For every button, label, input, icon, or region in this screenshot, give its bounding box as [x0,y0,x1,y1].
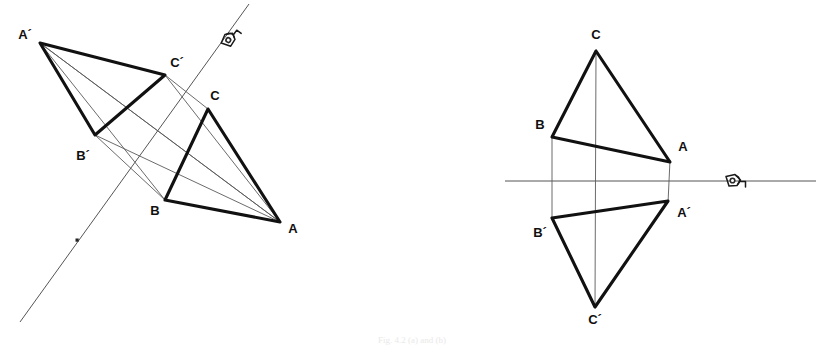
vertex-label-b-prime: B´ [533,225,547,240]
connector-c-cprime [595,51,596,307]
left-connector-lines [40,43,280,222]
vertex-label-c: C [210,88,220,103]
vertex-label-a: A [288,221,298,236]
right-connector-lines [552,51,670,307]
triangle-abc-reflected [552,201,668,307]
connector-aprime-to-b-ray [40,43,165,200]
connector-b-bprime [95,135,165,200]
left-reflection-axis [20,4,249,322]
right-view: A B C A´ B´ C´ [505,27,816,327]
connector-cprime-to-a-ray [165,75,280,222]
geometry-figure-canvas: A B C A´ B´ C´ A B C A´ B´ C´ [0,0,825,346]
triangle-abc-original [552,51,670,162]
vertex-label-b-prime: B´ [76,148,90,163]
left-axis-point-marker [76,239,79,242]
connector-c-cprime [165,75,208,109]
figure-caption: Fig. 4.2 (a) and (b) [378,335,446,345]
vertex-label-a-prime: A´ [677,205,691,220]
vertex-label-c-prime: C´ [588,312,602,327]
vertex-label-b: B [150,203,159,218]
geometry-drawing: A B C A´ B´ C´ A B C A´ B´ C´ [0,0,825,346]
vertex-label-b: B [535,117,544,132]
triangle-abc-original [165,109,280,222]
left-view: A B C A´ B´ C´ [18,4,298,322]
vertex-label-a-prime: A´ [18,27,32,42]
vertex-label-c-prime: C´ [170,55,184,70]
vertex-label-c: C [591,27,601,42]
vertex-label-a: A [678,139,688,154]
